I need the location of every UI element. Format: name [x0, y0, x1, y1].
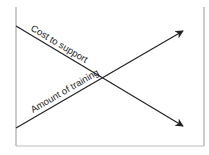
- amount-of-training-label: Amount of training: [28, 66, 100, 114]
- cost-to-support-label: Cost to support: [29, 22, 90, 65]
- diagram-canvas: Cost to support Amount of training: [0, 0, 209, 155]
- amount-of-training-line: [16, 31, 183, 128]
